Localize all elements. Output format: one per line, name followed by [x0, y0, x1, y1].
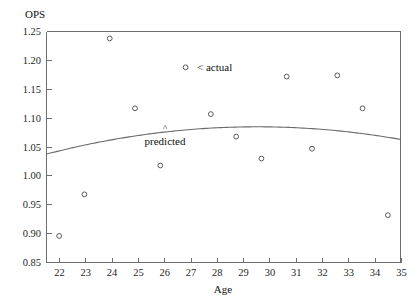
x-tick-label: 22: [54, 267, 65, 278]
x-tick-label: 25: [133, 267, 144, 278]
y-tick-label: 1.10: [23, 113, 41, 124]
x-tick-label: 32: [317, 267, 328, 278]
chart-canvas: OPS 1.25 1.20 1.15 1.10 1.05 1.00 0.95 0…: [0, 0, 417, 304]
data-point: [82, 192, 87, 197]
x-tick-label: 30: [265, 267, 276, 278]
data-point: [183, 65, 188, 70]
y-tick-label: 1.15: [23, 84, 41, 95]
x-tick-label: 34: [370, 267, 381, 278]
data-point: [208, 112, 213, 117]
y-tick-label: 1.00: [23, 170, 41, 181]
data-point: [133, 106, 138, 111]
x-tick-label: 24: [107, 267, 118, 278]
data-point: [385, 213, 390, 218]
x-tick-label: 29: [238, 267, 249, 278]
predicted-curve: [47, 127, 401, 154]
y-tick-label: 1.05: [23, 142, 41, 153]
x-tick-label: 27: [186, 267, 197, 278]
predicted-curve-group: [47, 127, 401, 154]
y-tick-label: 0.90: [23, 228, 41, 239]
x-tick-label: 23: [81, 267, 92, 278]
data-point: [57, 234, 62, 239]
y-axis-ticks: 1.25 1.20 1.15 1.10 1.05 1.00 0.95 0.90 …: [23, 26, 52, 268]
x-tick-label: 33: [344, 267, 355, 278]
data-point: [360, 106, 365, 111]
x-axis-title: Age: [214, 283, 232, 295]
ops-vs-age-chart: OPS 1.25 1.20 1.15 1.10 1.05 1.00 0.95 0…: [0, 0, 417, 304]
data-point: [234, 134, 239, 139]
x-tick-label: 26: [159, 267, 170, 278]
x-tick-label: 28: [212, 267, 223, 278]
x-tick-label: 35: [396, 267, 407, 278]
x-axis-ticks: 22 23 24 25 26 27 28 29 30 31 32 33: [54, 258, 406, 279]
x-tick-label: 31: [291, 267, 302, 278]
annotation-actual: < actual: [197, 61, 232, 73]
y-tick-label: 1.20: [23, 55, 41, 66]
y-axis-title: OPS: [25, 8, 45, 20]
data-point: [310, 146, 315, 151]
y-tick-label: 1.25: [23, 26, 41, 37]
data-point: [107, 36, 112, 41]
data-point: [158, 163, 163, 168]
y-tick-label: 0.95: [23, 199, 41, 210]
data-point: [259, 156, 264, 161]
data-point: [284, 74, 289, 79]
chart-annotations: < actual ^ predicted: [145, 61, 233, 147]
data-point: [335, 73, 340, 78]
y-tick-label: 0.85: [23, 257, 41, 268]
annotation-predicted: predicted: [145, 135, 186, 147]
